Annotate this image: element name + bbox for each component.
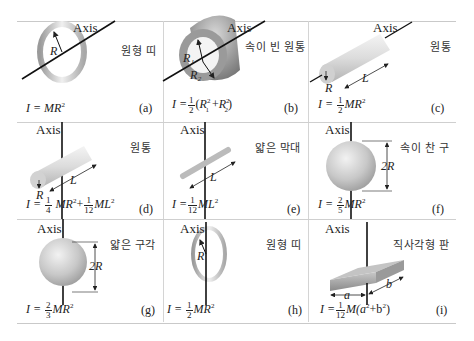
axis-label: Axis [227, 20, 252, 36]
formula-f: I = 25MR2 [318, 196, 365, 215]
dim-label-R1: R₁ [183, 51, 195, 66]
panel-name-g: 얇은 구각 [110, 236, 156, 252]
panel-tag-e: (e) [287, 202, 300, 217]
formula-i: I =112M(a2+b2) [320, 301, 390, 320]
dim-label-L: L [70, 173, 77, 188]
dim-label-R: R [50, 44, 57, 59]
panel-tag-i: (i) [436, 303, 447, 318]
axis-label: Axis [373, 20, 398, 36]
axis-label: Axis [36, 122, 61, 138]
axis-label: Axis [180, 221, 205, 237]
formula-c: I = 12MR2 [318, 96, 365, 115]
axis-label: Axis [325, 221, 350, 237]
dim-label-L: L [210, 170, 217, 185]
formula-d: I = 14 MR2+112ML2 [26, 196, 114, 215]
panel-name-a: 원형 띠 [121, 42, 157, 58]
panel-tag-d: (d) [139, 202, 153, 217]
axis-label: Axis [325, 122, 350, 138]
axis-label: Axis [180, 122, 205, 138]
panel-name-h: 원형 띠 [266, 236, 302, 252]
diagram-drawings [0, 0, 474, 341]
panel-tag-g: (g) [141, 303, 155, 318]
dim-label-R2: R₂ [190, 68, 202, 83]
dim-label-R: R [325, 81, 332, 96]
formula-a: I = MR2 [26, 101, 65, 116]
dim-label-2R: 2R [381, 159, 394, 174]
panel-tag-h: (h) [288, 303, 302, 318]
panel-name-f: 속이 찬 구 [400, 139, 450, 155]
axis-label: Axis [37, 221, 62, 237]
dim-label-2R: 2R [89, 259, 102, 274]
formula-b: I =12(R21 +R22) [172, 96, 232, 115]
panel-tag-c: (c) [431, 101, 444, 116]
hoop-a-drawing [22, 21, 115, 80]
panel-tag-f: (f) [432, 202, 444, 217]
axis-label: Axis [73, 20, 98, 36]
panel-tag-b: (b) [284, 101, 298, 116]
formula-e: I =112ML2 [172, 196, 218, 215]
panel-name-d: 원통 [130, 139, 151, 155]
panel-tag-a: (a) [139, 101, 152, 116]
panel-name-c: 원통 [430, 38, 451, 54]
formula-g: I = 23MR2 [26, 301, 73, 320]
dim-label-L: L [362, 71, 369, 86]
dim-label-R: R [197, 249, 204, 264]
panel-name-e: 얇은 막대 [255, 139, 301, 155]
formula-h: I = 12MR2 [167, 301, 214, 320]
dim-label-b: b [386, 277, 392, 292]
panel-name-i: 직사각형 판 [393, 236, 450, 252]
panel-name-b: 속이 빈 원통 [245, 38, 306, 54]
